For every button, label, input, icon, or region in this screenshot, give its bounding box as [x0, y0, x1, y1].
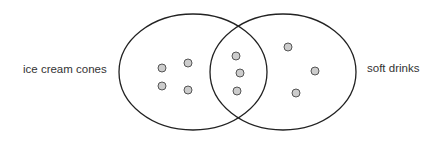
soft-drinks-only-dot [284, 43, 292, 51]
soft-drinks-set [210, 14, 356, 130]
ice-cream-only-dot [184, 59, 192, 67]
ice-cream-only-dot [158, 82, 166, 90]
soft-drinks-only-dot [292, 89, 300, 97]
ice-cream-only-dot [184, 86, 192, 94]
intersection-dot [236, 69, 244, 77]
soft-drinks-only-dot [311, 67, 319, 75]
ice-cream-only-dot [158, 64, 166, 72]
ice-cream-cones-set [119, 14, 267, 130]
intersection-dot [233, 87, 241, 95]
ice-cream-cones-label: ice cream cones [23, 63, 107, 75]
intersection-dot [232, 52, 240, 60]
soft-drinks-label: soft drinks [367, 62, 419, 74]
